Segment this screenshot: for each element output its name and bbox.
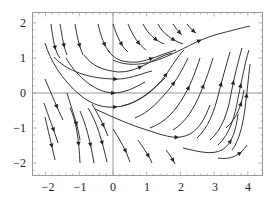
x-tick-label: 2 <box>178 180 184 194</box>
x-tick-label: 1 <box>144 180 150 194</box>
x-tick-label: 3 <box>212 180 218 194</box>
y-tick-label: −1 <box>13 121 26 135</box>
stream-plot: −2 −1 0 1 2 3 4 2 1 0 −1 −2 <box>0 0 276 198</box>
y-tick-label: 1 <box>20 51 26 65</box>
y-tick-label: 2 <box>20 16 26 30</box>
x-tick-label: −2 <box>42 180 55 194</box>
y-tick-label: 0 <box>20 86 26 100</box>
x-tick-label: −1 <box>74 180 87 194</box>
x-tick-label: 4 <box>245 180 251 194</box>
x-tick-label: 0 <box>110 180 116 194</box>
y-tick-label: −2 <box>13 156 26 170</box>
